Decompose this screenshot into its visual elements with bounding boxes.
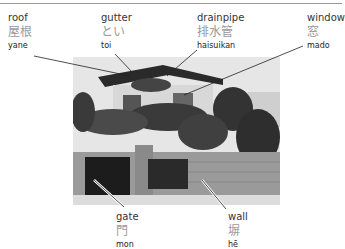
label-roof: roof 屋根 yane [8, 13, 32, 50]
label-window-japanese: 窓 [307, 26, 345, 38]
label-gate-english: gate [116, 212, 139, 222]
label-gutter-english: gutter [101, 13, 132, 23]
label-window-english: window [307, 13, 345, 23]
wall-leader-line [202, 180, 226, 209]
label-gutter-japanese: とい [101, 26, 132, 38]
label-gate-japanese: 門 [116, 225, 139, 237]
label-wall-japanese: 塀 [228, 225, 248, 237]
label-wall-romaji: hē [228, 241, 248, 249]
roof-leader-line [34, 56, 130, 76]
label-gate-romaji: mon [116, 241, 139, 249]
label-drainpipe: drainpipe 排水管 haisuikan [197, 13, 244, 50]
label-wall-english: wall [228, 212, 248, 222]
label-gutter-romaji: toi [101, 42, 132, 50]
label-wall: wall 塀 hē [228, 212, 248, 249]
gate-leader-line [94, 180, 124, 207]
label-drainpipe-romaji: haisuikan [197, 42, 244, 50]
window-leader-line [184, 46, 303, 95]
label-window-romaji: mado [307, 42, 345, 50]
label-roof-romaji: yane [8, 42, 32, 50]
label-gate: gate 門 mon [116, 212, 139, 249]
label-window: window 窓 mado [307, 13, 345, 50]
gutter-leader-line [115, 54, 133, 73]
label-roof-english: roof [8, 13, 32, 23]
drainpipe-leader-line [167, 50, 197, 76]
label-drainpipe-english: drainpipe [197, 13, 244, 23]
label-gutter: gutter とい toi [101, 13, 132, 50]
label-roof-japanese: 屋根 [8, 26, 32, 38]
label-drainpipe-japanese: 排水管 [197, 26, 244, 38]
